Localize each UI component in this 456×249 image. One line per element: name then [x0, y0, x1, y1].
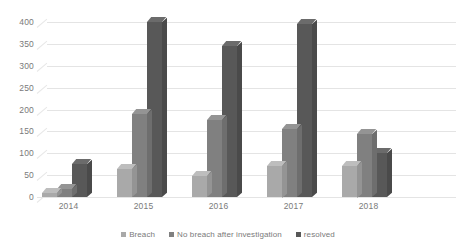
bar — [342, 166, 357, 198]
bar-front-face — [267, 166, 282, 198]
bar-side-face — [132, 164, 137, 197]
bar — [117, 169, 132, 197]
bar-side-face — [87, 160, 92, 197]
bar-front-face — [192, 176, 207, 197]
bar-side-face — [207, 172, 212, 197]
legend-item[interactable]: Breach — [121, 230, 155, 239]
legend-label: No breach after investigation — [177, 230, 282, 239]
bar — [192, 176, 207, 197]
bar-side-face — [387, 149, 392, 197]
bar-front-face — [42, 193, 57, 197]
chart-legend: BreachNo breach after investigationresol… — [0, 230, 456, 239]
bar-side-face — [297, 125, 302, 197]
legend-item[interactable]: resolved — [296, 230, 335, 239]
plot-area: 050100150200250300350400 201420152016201… — [0, 0, 456, 215]
x-axis-tick-label: 2018 — [339, 201, 399, 211]
legend-label: resolved — [304, 230, 335, 239]
legend-swatch-icon — [169, 232, 174, 237]
legend-item[interactable]: No breach after investigation — [169, 230, 282, 239]
x-axis-tick-label: 2015 — [114, 201, 174, 211]
bar-side-face — [312, 20, 317, 197]
legend-label: Breach — [129, 230, 155, 239]
bar — [267, 166, 282, 198]
bar-side-face — [357, 161, 362, 197]
legend-swatch-icon — [296, 232, 301, 237]
x-axis-tick-label: 2017 — [264, 201, 324, 211]
bar — [42, 193, 57, 197]
bar-front-face — [342, 166, 357, 198]
bar-side-face — [282, 161, 287, 197]
x-axis-tick-label: 2016 — [189, 201, 249, 211]
bar-side-face — [222, 116, 227, 197]
legend-swatch-icon — [121, 232, 126, 237]
bar-front-face — [117, 169, 132, 197]
x-axis-tick-label: 2014 — [39, 201, 99, 211]
bar-side-face — [372, 129, 377, 197]
bar-side-face — [147, 110, 152, 197]
bar-side-face — [162, 18, 167, 197]
bar-chart: 050100150200250300350400 201420152016201… — [0, 0, 456, 249]
bar-side-face — [237, 42, 242, 197]
